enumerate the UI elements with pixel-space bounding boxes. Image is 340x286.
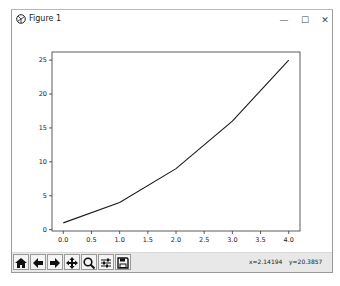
forward-button[interactable] bbox=[47, 254, 63, 270]
matplotlib-logo-icon bbox=[16, 14, 26, 24]
x-tick-label: 3.0 bbox=[227, 236, 237, 244]
plot-area bbox=[52, 52, 300, 231]
home-icon bbox=[14, 256, 28, 270]
x-tick-label: 4.0 bbox=[284, 236, 294, 244]
configure-subplots-button[interactable] bbox=[98, 254, 114, 270]
navigation-toolbar: x=2.14194 y=20.3857 bbox=[12, 252, 332, 272]
magnifier-icon bbox=[82, 256, 96, 270]
x-tick-label: 3.5 bbox=[255, 236, 265, 244]
y-tick-label: 15 bbox=[39, 124, 47, 132]
save-button[interactable] bbox=[115, 254, 131, 270]
title-bar[interactable]: Figure 1 — ☐ ✕ bbox=[12, 10, 332, 32]
y-tick-label: 25 bbox=[39, 56, 47, 64]
x-tick-label: 0.5 bbox=[86, 236, 96, 244]
y-tick-label: 0 bbox=[43, 226, 47, 234]
home-button[interactable] bbox=[13, 254, 29, 270]
sliders-icon bbox=[99, 256, 113, 270]
x-tick-label: 0.0 bbox=[58, 236, 68, 244]
y-coordinate: y=20.3857 bbox=[289, 258, 322, 265]
figure-window: Figure 1 — ☐ ✕ 0.00.51.01.52.02.53.03.54… bbox=[11, 9, 333, 273]
zoom-button[interactable] bbox=[81, 254, 97, 270]
arrow-left-icon bbox=[31, 256, 45, 270]
minimize-button[interactable]: — bbox=[274, 12, 294, 28]
x-tick-label: 2.5 bbox=[199, 236, 209, 244]
y-tick-label: 5 bbox=[43, 192, 47, 200]
pan-button[interactable] bbox=[64, 254, 80, 270]
back-button[interactable] bbox=[30, 254, 46, 270]
x-tick-label: 2.0 bbox=[171, 236, 181, 244]
line-chart: 0.00.51.01.52.02.53.03.54.00510152025 bbox=[12, 32, 332, 256]
y-tick-label: 10 bbox=[39, 158, 47, 166]
figure-canvas[interactable]: 0.00.51.01.52.02.53.03.54.00510152025 bbox=[12, 32, 332, 256]
y-tick-label: 20 bbox=[39, 90, 47, 98]
floppy-disk-icon bbox=[116, 256, 130, 270]
x-coordinate: x=2.14194 bbox=[249, 258, 282, 265]
maximize-button[interactable]: ☐ bbox=[295, 12, 315, 28]
x-tick-label: 1.5 bbox=[143, 236, 153, 244]
move-icon bbox=[65, 256, 79, 270]
close-button[interactable]: ✕ bbox=[315, 12, 335, 28]
window-title: Figure 1 bbox=[29, 14, 61, 23]
arrow-right-icon bbox=[48, 256, 62, 270]
x-tick-label: 1.0 bbox=[114, 236, 124, 244]
